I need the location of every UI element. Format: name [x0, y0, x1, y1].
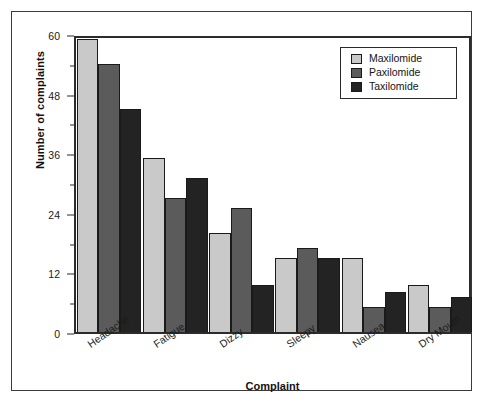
y-tick-mark — [67, 155, 74, 156]
y-tick-mark — [67, 274, 74, 275]
bar — [120, 109, 142, 333]
legend-item: Taxilomide — [346, 80, 451, 93]
bar — [318, 258, 340, 333]
chart-figure: Number of complaints 01224364860 Headach… — [0, 0, 487, 406]
legend-swatch — [351, 68, 362, 78]
legend-item: Paxilomide — [346, 66, 451, 79]
y-tick-label: 60 — [48, 30, 60, 42]
bar — [186, 178, 208, 332]
legend: MaxilomidePaxilomideTaxilomide — [340, 47, 457, 99]
legend-swatch — [351, 54, 362, 64]
legend-label: Taxilomide — [369, 81, 419, 92]
bar — [231, 208, 253, 332]
bar — [275, 258, 297, 333]
bar — [408, 285, 430, 332]
x-axis-title: Complaint — [74, 380, 471, 392]
bar — [209, 233, 231, 332]
bar-group — [275, 38, 340, 332]
bar — [297, 248, 319, 332]
y-tick-mark — [67, 214, 74, 215]
y-tick-label: 24 — [48, 209, 60, 221]
y-axis: 01224364860 — [12, 12, 74, 334]
y-tick-label: 12 — [48, 268, 60, 280]
figure-border: Number of complaints 01224364860 Headach… — [11, 11, 472, 391]
bar — [342, 258, 364, 333]
y-tick-label: 0 — [54, 328, 60, 340]
bar — [165, 198, 187, 332]
bar-group — [209, 38, 274, 332]
legend-label: Maxilomide — [369, 53, 422, 64]
bar-group — [77, 38, 142, 332]
bar-group — [143, 38, 208, 332]
bar — [98, 64, 120, 332]
legend-item: Maxilomide — [346, 52, 451, 65]
legend-swatch — [351, 82, 362, 92]
y-tick-mark — [67, 334, 74, 335]
bar — [143, 158, 165, 332]
y-tick-label: 36 — [48, 149, 60, 161]
y-tick-label: 48 — [48, 90, 60, 102]
legend-label: Paxilomide — [369, 67, 420, 78]
y-tick-mark — [67, 36, 74, 37]
bar — [252, 285, 274, 332]
y-tick-mark — [67, 95, 74, 96]
bar — [77, 39, 99, 332]
bar — [385, 292, 407, 332]
